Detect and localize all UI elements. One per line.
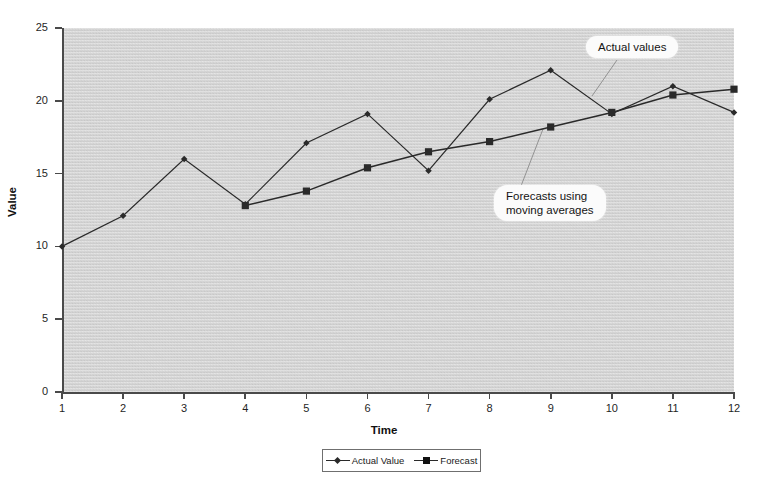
square-marker-icon (364, 164, 371, 171)
series-line-actual-value (62, 70, 734, 246)
callout-leader-line (592, 60, 617, 96)
data-series-layer (0, 0, 768, 494)
square-marker-icon (547, 123, 554, 130)
square-marker-icon (303, 188, 310, 195)
diamond-marker-icon (670, 83, 677, 90)
series-lines (62, 70, 734, 246)
series-markers (59, 67, 738, 250)
diamond-marker-icon (731, 109, 738, 116)
legend-item-forecast: Forecast (414, 455, 477, 466)
square-marker-icon (669, 91, 676, 98)
callout-leader-line (521, 129, 543, 186)
line-chart: 0510152025 123456789101112 Time Value Ac… (0, 0, 768, 494)
legend-item-actual-value: Actual Value (326, 455, 405, 466)
diamond-marker-icon (59, 243, 66, 250)
callout-actual-values: Actual values (586, 36, 678, 58)
square-marker-icon (414, 456, 438, 466)
square-marker-icon (608, 109, 615, 116)
callout-forecasts-moving-averages: Forecasts using moving averages (494, 185, 606, 221)
square-marker-icon (242, 202, 249, 209)
diamond-marker-icon (326, 456, 350, 466)
legend-label-actual-value: Actual Value (352, 455, 405, 466)
series-line-forecast (245, 89, 734, 205)
square-marker-icon (425, 148, 432, 155)
square-marker-icon (730, 86, 737, 93)
legend-label-forecast: Forecast (440, 455, 477, 466)
chart-legend: Actual Value Forecast (322, 449, 481, 472)
square-marker-icon (486, 138, 493, 145)
